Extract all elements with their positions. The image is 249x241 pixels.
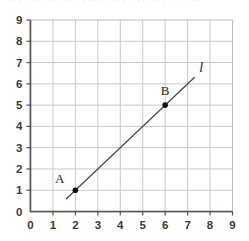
x-tick-label: 1	[50, 219, 57, 231]
x-axis-tick-labels: 0123456789	[27, 219, 235, 231]
y-tick-label: 8	[16, 35, 23, 47]
y-tick-label: 5	[16, 99, 23, 111]
y-tick-label: 9	[16, 14, 22, 26]
point-label-A: A	[55, 171, 65, 186]
x-tick-label: 0	[27, 219, 33, 231]
clipped-text-remnant: ··· ··· ·· ··· ····· ··· ··· ··· ·· ···	[8, 0, 223, 3]
x-tick-label: 9	[229, 219, 235, 231]
y-tick-label: 0	[16, 206, 22, 218]
x-tick-label: 4	[117, 219, 124, 231]
x-tick-label: 6	[162, 219, 168, 231]
line-label-l: l	[199, 60, 203, 75]
x-tick-label: 8	[207, 219, 214, 231]
y-tick-label: 6	[16, 78, 22, 90]
x-tick-label: 2	[72, 219, 78, 231]
y-tick-label: 1	[16, 184, 23, 196]
x-tick-label: 7	[184, 219, 190, 231]
y-tick-label: 7	[16, 57, 22, 69]
y-tick-label: 2	[16, 163, 22, 175]
y-tick-label: 3	[16, 142, 22, 154]
x-tick-label: 5	[140, 219, 147, 231]
line-graph-svg: 0123456789 0123456789 l AB	[0, 0, 249, 241]
y-tick-label: 4	[16, 120, 23, 132]
point-label-B: B	[161, 83, 170, 98]
coordinate-plane-figure: ··· ··· ·· ··· ····· ··· ··· ··· ·· ··· …	[0, 0, 249, 241]
x-tick-label: 3	[95, 219, 101, 231]
data-point-A	[73, 187, 79, 193]
y-axis-tick-labels: 0123456789	[16, 14, 23, 218]
data-point-B	[162, 102, 168, 108]
